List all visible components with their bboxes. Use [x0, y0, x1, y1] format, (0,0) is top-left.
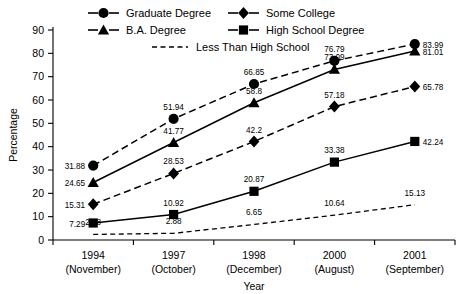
legend-marker-square [239, 25, 248, 34]
x-axis-title: Year [243, 280, 265, 292]
x-category-month-label: (September) [386, 263, 444, 275]
y-tick-label: 90 [32, 24, 44, 36]
data-point-label: 31.88 [65, 162, 86, 171]
data-point-label: 57.18 [324, 91, 345, 100]
data-point-marker [88, 161, 98, 171]
data-point-label: 58.8 [246, 87, 262, 96]
data-point-label: 10.92 [163, 199, 184, 208]
legend-label: Some College [266, 7, 335, 19]
data-point-marker [249, 136, 260, 148]
legend-label: B.A. Degree [126, 24, 186, 36]
legend-item[interactable]: Less Than High School [152, 41, 310, 53]
data-point-label: 81.01 [423, 48, 444, 57]
x-category-year-label: 2000 [323, 249, 347, 261]
legend-marker-triangle [98, 24, 109, 34]
y-tick-label: 20 [32, 187, 44, 199]
x-category-month-label: (December) [226, 263, 281, 275]
data-point-label: 66.85 [244, 68, 265, 77]
data-point-marker [329, 101, 340, 113]
x-category-year-label: 1997 [162, 249, 186, 261]
data-point-marker [249, 187, 258, 196]
legend: Graduate DegreeSome CollegeB.A. DegreeHi… [88, 7, 364, 53]
legend-item[interactable]: High School Degree [228, 24, 364, 36]
y-axis-ticks: 0102030405060708090 [32, 24, 53, 246]
data-point-label: 33.38 [324, 146, 345, 155]
data-point-label: 20.87 [244, 175, 265, 184]
y-tick-label: 30 [32, 164, 44, 176]
legend-marker-diamond [238, 7, 249, 19]
x-category-year-label: 1994 [82, 249, 106, 261]
y-tick-label: 80 [32, 47, 44, 59]
data-point-label: 73.09 [324, 53, 345, 62]
legend-marker-circle [98, 8, 108, 18]
y-tick-label: 0 [38, 234, 44, 246]
data-point-label: 41.77 [163, 127, 184, 136]
y-tick-label: 40 [32, 140, 44, 152]
data-point-label: 42.2 [246, 126, 262, 135]
data-point-marker [409, 81, 420, 93]
data-point-label: 15.31 [65, 201, 86, 210]
line-chart: 0102030405060708090Percentage1994(Novemb… [0, 0, 463, 294]
x-axis-ticks: 1994(November)1997(October)1998(December… [53, 240, 455, 275]
data-point-marker [88, 177, 99, 187]
data-point-label: 2.38 [85, 218, 101, 227]
x-category-month-label: (August) [315, 263, 355, 275]
legend-item[interactable]: B.A. Degree [88, 24, 186, 36]
data-point-marker [410, 137, 419, 146]
data-point-marker [169, 114, 179, 124]
y-tick-label: 10 [32, 210, 44, 222]
legend-item[interactable]: Graduate Degree [88, 7, 211, 19]
legend-item[interactable]: Some College [228, 7, 335, 19]
y-tick-label: 60 [32, 94, 44, 106]
data-point-label: 15.13 [405, 189, 426, 198]
data-point-label: 42.24 [423, 138, 444, 147]
chart-canvas: 0102030405060708090Percentage1994(Novemb… [0, 0, 463, 294]
y-axis-title: Percentage [7, 108, 19, 162]
y-tick-label: 50 [32, 117, 44, 129]
x-category-year-label: 2001 [403, 249, 427, 261]
data-point-marker [248, 97, 259, 107]
data-point-label: 51.94 [163, 103, 184, 112]
y-tick-label: 70 [32, 70, 44, 82]
data-point-label: 10.64 [324, 199, 345, 208]
data-point-label: 65.78 [423, 83, 444, 92]
data-point-label: 2.88 [166, 217, 182, 226]
data-point-label: 28.53 [163, 157, 184, 166]
legend-label: Graduate Degree [126, 7, 211, 19]
data-point-label: 7.29 [69, 220, 85, 229]
data-point-label: 24.65 [65, 179, 86, 188]
x-category-month-label: (October) [151, 263, 195, 275]
data-point-marker [88, 198, 99, 210]
series-b-a-degree: 24.6541.7758.873.0981.01 [65, 45, 444, 188]
legend-label: Less Than High School [196, 41, 310, 53]
data-point-label: 6.65 [246, 208, 262, 217]
legend-label: High School Degree [266, 24, 364, 36]
x-category-year-label: 1998 [242, 249, 266, 261]
data-point-marker [168, 167, 179, 179]
x-category-month-label: (November) [65, 263, 120, 275]
data-point-marker [168, 137, 179, 147]
data-point-marker [330, 158, 339, 167]
